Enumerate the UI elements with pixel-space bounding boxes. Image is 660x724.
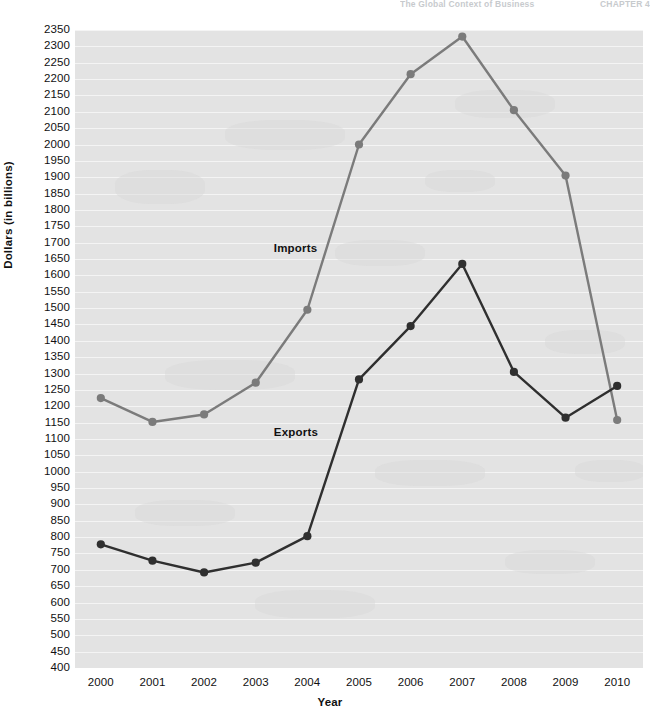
series-label-exports: Exports <box>274 426 318 438</box>
y-tick-label: 450 <box>51 646 71 658</box>
data-point-exports-2010 <box>613 382 621 390</box>
y-tick-label: 2150 <box>44 90 70 102</box>
y-tick-label: 400 <box>51 662 71 674</box>
data-point-exports-2007 <box>458 260 466 268</box>
y-tick-label: 850 <box>51 515 71 527</box>
data-point-imports-2004 <box>303 306 311 314</box>
x-tick-label: 2009 <box>553 676 579 688</box>
y-tick-label: 1100 <box>45 433 70 445</box>
y-tick-label: 1900 <box>44 171 70 183</box>
y-tick-label: 1650 <box>44 253 70 265</box>
data-point-exports-2001 <box>148 557 156 565</box>
data-point-imports-2003 <box>252 379 260 387</box>
y-tick-label: 1550 <box>44 286 70 298</box>
x-tick-label: 2000 <box>88 676 114 688</box>
data-point-exports-2003 <box>252 559 260 567</box>
y-tick-label: 1700 <box>44 237 70 249</box>
plot-area: Imports Exports <box>75 30 643 668</box>
x-axis-tick-labels: 2000200120022003200420052006200720082009… <box>75 676 643 694</box>
y-tick-label: 950 <box>51 482 71 494</box>
y-tick-label: 2050 <box>44 122 70 134</box>
y-tick-label: 500 <box>51 630 71 642</box>
data-point-imports-2001 <box>148 418 156 426</box>
data-point-imports-2002 <box>200 410 208 418</box>
x-tick-label: 2007 <box>449 676 475 688</box>
x-tick-label: 2005 <box>346 676 372 688</box>
y-tick-label: 1600 <box>44 270 70 282</box>
y-tick-label: 1800 <box>44 204 70 216</box>
y-axis-tick-labels: 2350230022502200215021002050200019501900… <box>28 30 70 668</box>
x-tick-label: 2008 <box>501 676 527 688</box>
y-tick-label: 2200 <box>44 73 70 85</box>
y-tick-label: 1400 <box>44 335 70 347</box>
y-tick-label: 2300 <box>44 41 70 53</box>
y-tick-label: 600 <box>51 597 71 609</box>
data-point-imports-2009 <box>561 171 569 179</box>
data-point-imports-2007 <box>458 32 466 40</box>
y-tick-label: 1450 <box>44 319 70 331</box>
y-tick-label: 550 <box>51 613 71 625</box>
series-label-imports: Imports <box>274 242 318 254</box>
y-tick-label: 1250 <box>44 384 70 396</box>
x-tick-label: 2002 <box>191 676 217 688</box>
y-tick-label: 1350 <box>44 351 70 363</box>
x-tick-label: 2004 <box>294 676 320 688</box>
y-tick-label: 1850 <box>44 188 70 200</box>
data-point-imports-2000 <box>97 394 105 402</box>
y-axis-title: Dollars (in billions) <box>2 130 14 300</box>
x-tick-label: 2010 <box>604 676 630 688</box>
y-tick-label: 800 <box>51 531 71 543</box>
y-tick-label: 1750 <box>44 221 70 233</box>
running-header-right: CHAPTER 4 <box>600 0 650 9</box>
y-tick-label: 900 <box>51 499 71 511</box>
y-tick-label: 1000 <box>44 466 70 478</box>
y-tick-label: 1050 <box>44 450 70 462</box>
x-tick-label: 2006 <box>398 676 424 688</box>
data-point-exports-2000 <box>97 540 105 548</box>
data-point-exports-2009 <box>561 414 569 422</box>
y-tick-label: 1300 <box>44 368 70 380</box>
data-point-exports-2008 <box>510 368 518 376</box>
data-point-imports-2006 <box>407 70 415 78</box>
data-point-exports-2005 <box>355 375 363 383</box>
data-point-imports-2010 <box>613 416 621 424</box>
data-point-imports-2005 <box>355 140 363 148</box>
data-point-exports-2004 <box>303 532 311 540</box>
y-tick-label: 1200 <box>44 401 70 413</box>
y-tick-label: 2100 <box>44 106 70 118</box>
y-tick-label: 2000 <box>44 139 70 151</box>
chart-page: The Global Context of Business CHAPTER 4… <box>0 0 660 724</box>
data-point-exports-2006 <box>407 322 415 330</box>
y-tick-label: 1500 <box>44 302 70 314</box>
x-axis-title: Year <box>0 696 660 708</box>
y-tick-label: 2350 <box>44 24 70 36</box>
y-tick-label: 750 <box>51 548 71 560</box>
y-tick-label: 1950 <box>44 155 70 167</box>
y-tick-label: 650 <box>51 580 71 592</box>
y-tick-label: 1150 <box>45 417 70 429</box>
y-tick-label: 700 <box>51 564 71 576</box>
data-point-imports-2008 <box>510 106 518 114</box>
running-header: The Global Context of Business CHAPTER 4 <box>400 0 650 9</box>
x-tick-label: 2001 <box>139 676 165 688</box>
data-point-exports-2002 <box>200 568 208 576</box>
running-header-left: The Global Context of Business <box>400 0 534 9</box>
series-line-imports <box>101 37 617 422</box>
x-tick-label: 2003 <box>243 676 269 688</box>
series-lines <box>75 30 643 668</box>
y-tick-label: 2250 <box>44 57 70 69</box>
